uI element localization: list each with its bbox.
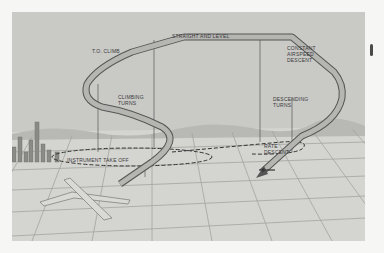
diagram-panel: T.O. CLIMB STRAIGHT AND LEVEL CONSTANT A… [12,12,365,241]
page-edge-mark [370,44,373,56]
label-descending-turns: DESCENDING TURNS [273,96,308,108]
label-constant-airspeed-descent: CONSTANT AIRSPEED DESCENT [287,45,316,63]
ground-plane [12,127,365,241]
label-straight-and-level: STRAIGHT AND LEVEL [172,33,229,39]
label-climbing-turns: CLIMBING TURNS [118,94,144,106]
label-instrument-take-off: INSTRUMENT TAKE OFF [67,157,129,163]
label-rate-descent: RATE DESCENT [264,143,289,155]
label-td-climb: T.O. CLIMB [92,48,120,54]
